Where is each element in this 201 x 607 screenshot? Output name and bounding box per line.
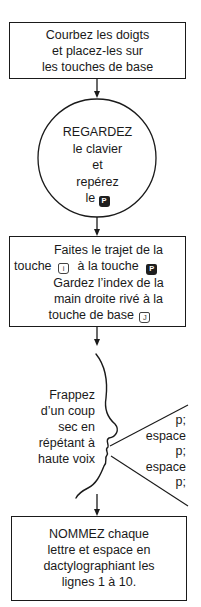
step2-text: REGARDEZ le clavier et repérez le P bbox=[40, 124, 155, 207]
spoken-word: espace bbox=[146, 429, 186, 445]
step4-instruction: Frappez d’un coup sec en répétant à haut… bbox=[38, 387, 95, 467]
step4-line: sec en bbox=[38, 419, 95, 435]
flowchart-diagram: Courbez les doigts et placez-les sur les… bbox=[0, 0, 201, 607]
step2-line: REGARDEZ bbox=[40, 124, 155, 141]
step2-line: et bbox=[40, 157, 155, 174]
spoken-word: p; bbox=[146, 475, 186, 491]
step5-line: NOMMEZ chaque bbox=[12, 526, 186, 542]
step3-box: Faites le trajet de la touche i à la tou… bbox=[9, 236, 186, 327]
step5-line: lettre et espace en bbox=[12, 542, 186, 558]
step4-line: répétant à bbox=[38, 435, 95, 451]
key-p-icon: P bbox=[99, 196, 110, 207]
step5-box: NOMMEZ chaque lettre et espace en dactyl… bbox=[11, 516, 187, 601]
step1-box: Courbez les doigts et placez-les sur les… bbox=[9, 22, 186, 79]
step2-line: repérez bbox=[40, 174, 155, 191]
spoken-word: espace bbox=[146, 460, 186, 476]
step3-line: Faites le trajet de la bbox=[10, 242, 185, 258]
key-i-icon: i bbox=[58, 263, 69, 274]
step3-line: Gardez l’index de la bbox=[10, 275, 185, 291]
spoken-word: p; bbox=[146, 413, 186, 429]
step1-line: Courbez les doigts bbox=[10, 27, 185, 43]
step2-line: le clavier bbox=[40, 141, 155, 158]
step2-line-with-key: le P bbox=[40, 190, 155, 207]
step1-line: et placez-les sur bbox=[10, 43, 185, 59]
step4-line: Frappez bbox=[38, 387, 95, 403]
step5-line: dactylographiant les bbox=[12, 558, 186, 574]
key-p-icon: P bbox=[146, 264, 157, 275]
step4-line: haute voix bbox=[38, 451, 95, 467]
key-j-icon: J bbox=[139, 312, 150, 323]
spoken-sequence: p; espace p; espace p; bbox=[146, 413, 186, 491]
step3-line-with-keys: touche i à la touche P bbox=[10, 258, 185, 275]
step3-line: main droite rivé à la bbox=[10, 291, 185, 307]
step4-line: d’un coup bbox=[38, 403, 95, 419]
spoken-word: p; bbox=[146, 444, 186, 460]
step5-line: lignes 1 à 10. bbox=[12, 574, 186, 590]
step1-line: les touches de base bbox=[10, 59, 185, 75]
step3-line-with-key: touche de base J bbox=[10, 307, 185, 323]
